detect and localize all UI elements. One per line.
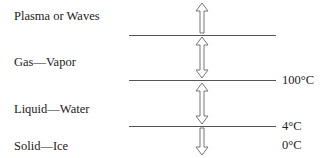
arrows-layer bbox=[0, 0, 327, 158]
double-arrow-icon bbox=[196, 37, 208, 78]
double-arrow-icon bbox=[196, 83, 208, 124]
down-arrow-icon bbox=[196, 128, 208, 155]
up-arrow-icon bbox=[196, 3, 208, 33]
